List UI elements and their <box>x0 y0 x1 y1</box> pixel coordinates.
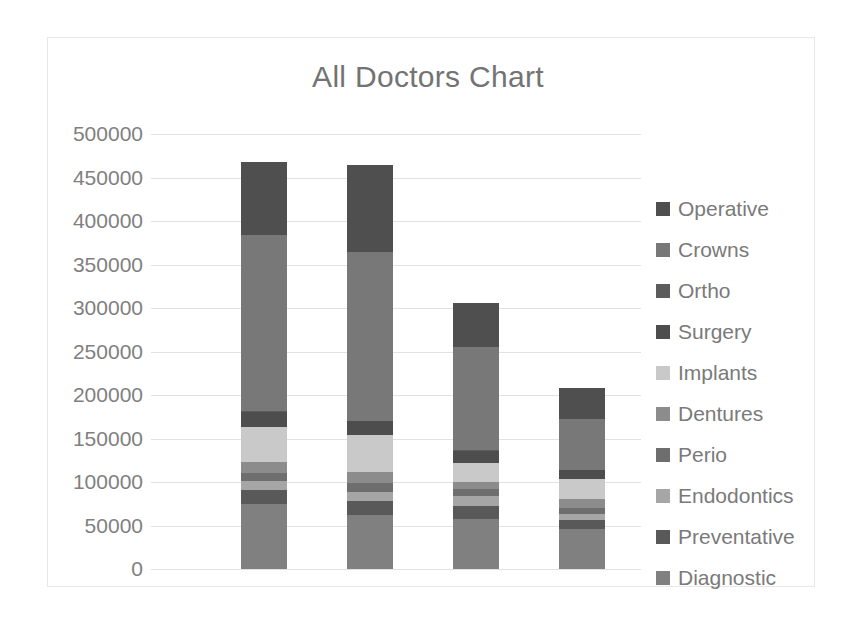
bar-segment[interactable] <box>559 470 605 480</box>
bar-segment[interactable] <box>241 462 287 473</box>
bar-segment[interactable] <box>347 492 393 502</box>
bar-segment[interactable] <box>347 421 393 435</box>
bar-segment[interactable] <box>347 435 393 472</box>
legend-item[interactable]: Preventative <box>656 516 842 557</box>
gridline <box>151 569 641 570</box>
bar-segment[interactable] <box>453 451 499 463</box>
bar-segment[interactable] <box>241 473 287 481</box>
bar-segment[interactable] <box>241 427 287 462</box>
legend-swatch-icon <box>656 489 670 503</box>
bar-segment[interactable] <box>241 490 287 504</box>
gridline <box>151 178 641 179</box>
legend-swatch-icon <box>656 448 670 462</box>
bar-segment[interactable] <box>559 499 605 508</box>
bar-segment[interactable] <box>453 489 499 496</box>
bar-segment[interactable] <box>347 165 393 252</box>
y-axis: 5000004500004000003500003000002500002000… <box>48 134 143 569</box>
bar-segment[interactable] <box>453 347 499 450</box>
legend-item[interactable]: Diagnostic <box>656 557 842 598</box>
legend-swatch-icon <box>656 243 670 257</box>
bar-column[interactable] <box>559 388 605 569</box>
bar-segment[interactable] <box>347 515 393 569</box>
legend-item-label: Crowns <box>678 238 749 262</box>
bar-segment[interactable] <box>453 463 499 482</box>
y-axis-tick-label: 400000 <box>73 209 143 233</box>
legend-item[interactable]: Ortho <box>656 270 842 311</box>
bar-segment[interactable] <box>559 419 605 470</box>
bar-segment[interactable] <box>559 388 605 418</box>
bar-segment[interactable] <box>453 506 499 518</box>
legend-swatch-icon <box>656 202 670 216</box>
gridline <box>151 352 641 353</box>
y-axis-tick-label: 100000 <box>73 470 143 494</box>
legend-item[interactable]: Perio <box>656 434 842 475</box>
y-axis-tick-label: 350000 <box>73 253 143 277</box>
legend-item[interactable]: Dentures <box>656 393 842 434</box>
legend-item-label: Ortho <box>678 279 731 303</box>
y-axis-tick-label: 250000 <box>73 340 143 364</box>
bar-segment[interactable] <box>241 481 287 490</box>
gridline <box>151 221 641 222</box>
chart-title: All Doctors Chart <box>168 60 688 94</box>
bar-segment[interactable] <box>453 519 499 569</box>
legend-swatch-icon <box>656 407 670 421</box>
legend-item-label: Surgery <box>678 320 752 344</box>
bar-segment[interactable] <box>453 482 499 489</box>
bar-segment[interactable] <box>559 479 605 499</box>
legend-item[interactable]: Implants <box>656 352 842 393</box>
legend-item-label: Implants <box>678 361 757 385</box>
chart-legend: OperativeCrownsOrthoSurgeryImplantsDentu… <box>656 188 842 598</box>
y-axis-tick-label: 300000 <box>73 296 143 320</box>
legend-item-label: Operative <box>678 197 769 221</box>
bar-segment[interactable] <box>347 252 393 420</box>
bar-segment[interactable] <box>347 501 393 515</box>
legend-swatch-icon <box>656 571 670 585</box>
legend-item-label: Dentures <box>678 402 763 426</box>
bar-segment[interactable] <box>347 472 393 483</box>
legend-item[interactable]: Operative <box>656 188 842 229</box>
legend-swatch-icon <box>656 366 670 380</box>
legend-item-label: Preventative <box>678 525 795 549</box>
legend-swatch-icon <box>656 284 670 298</box>
legend-item[interactable]: Endodontics <box>656 475 842 516</box>
legend-item[interactable]: Surgery <box>656 311 842 352</box>
bar-column[interactable] <box>241 162 287 569</box>
legend-swatch-icon <box>656 325 670 339</box>
gridline <box>151 134 641 135</box>
legend-item[interactable]: Crowns <box>656 229 842 270</box>
bar-segment[interactable] <box>347 483 393 492</box>
bar-segment[interactable] <box>453 496 499 506</box>
gridline <box>151 265 641 266</box>
bar-column[interactable] <box>347 165 393 569</box>
y-axis-tick-label: 150000 <box>73 427 143 451</box>
plot-area <box>151 134 641 569</box>
y-axis-tick-label: 500000 <box>73 122 143 146</box>
bar-segment[interactable] <box>241 504 287 569</box>
legend-item-label: Diagnostic <box>678 566 776 590</box>
bar-segment[interactable] <box>241 412 287 428</box>
bar-segment[interactable] <box>241 162 287 235</box>
legend-item-label: Perio <box>678 443 727 467</box>
legend-swatch-icon <box>656 530 670 544</box>
y-axis-tick-label: 450000 <box>73 166 143 190</box>
bar-segment[interactable] <box>559 520 605 529</box>
y-axis-tick-label: 200000 <box>73 383 143 407</box>
legend-item-label: Endodontics <box>678 484 794 508</box>
bar-segment[interactable] <box>453 303 499 347</box>
bar-segment[interactable] <box>241 235 287 411</box>
bar-segment[interactable] <box>559 529 605 569</box>
y-axis-tick-label: 0 <box>131 557 143 581</box>
chart-container: All Doctors Chart 5000004500004000003500… <box>47 37 815 587</box>
y-axis-tick-label: 50000 <box>85 514 143 538</box>
bar-column[interactable] <box>453 303 499 569</box>
gridline <box>151 308 641 309</box>
